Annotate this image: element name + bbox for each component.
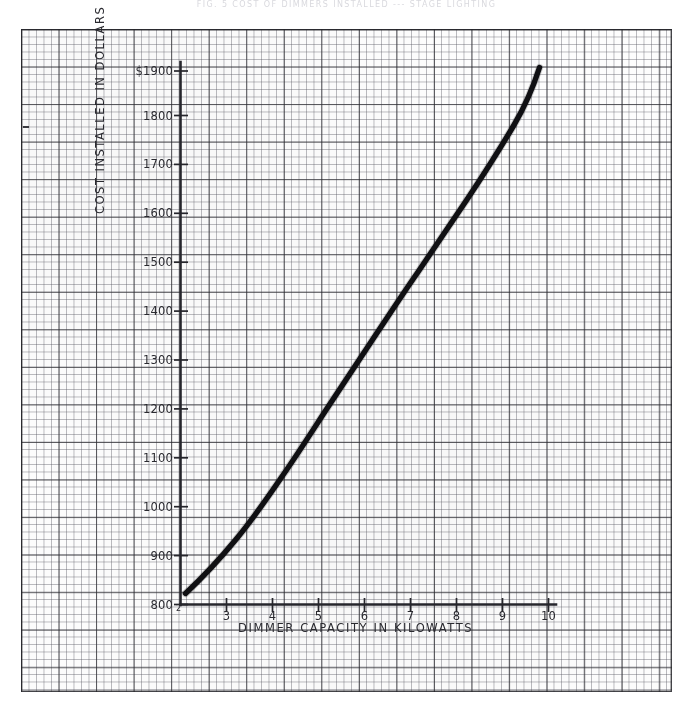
y-tick-label-1700: 1700 (113, 157, 173, 171)
y-tick-label-1000: 1000 (113, 500, 173, 514)
x-tick-label-9: 9 (499, 609, 507, 623)
y-tick-label-900: 900 (113, 549, 173, 563)
y-tick-label-1800: 1800 (113, 109, 173, 123)
y-tick-label-1300: 1300 (113, 353, 173, 367)
y-axis-title: COST INSTALLED IN DOLLARS EACH (93, 0, 107, 214)
y-tick-label-1600: 1600 (113, 206, 173, 220)
y-tick-label-1100: 1100 (113, 451, 173, 465)
y-tick-label-1400: 1400 (113, 304, 173, 318)
scan-artifact-mark (23, 126, 29, 128)
x-tick-label-10: 10 (541, 609, 556, 623)
x-axis-title: DIMMER CAPACITY IN KILOWATTS (238, 621, 473, 635)
y-tick-label-800: 800 (113, 598, 173, 612)
x-tick-label-3: 3 (223, 609, 231, 623)
x-axis-origin-subscript: 2 (176, 604, 181, 613)
y-tick-label-1500: 1500 (113, 255, 173, 269)
y-tick-label-1200: 1200 (113, 402, 173, 416)
y-tick-label-1900: $1900 (113, 64, 173, 78)
